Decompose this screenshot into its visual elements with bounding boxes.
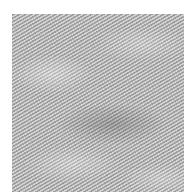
fabric-texture-image [12,14,184,192]
